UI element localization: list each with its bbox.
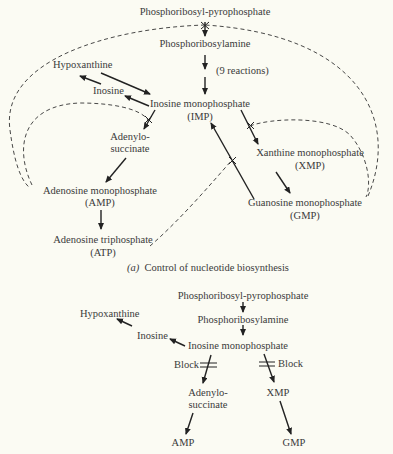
b-arrow-imp-to-inosine: [170, 339, 185, 346]
node-atp: Adenosine triphosphate: [53, 234, 152, 246]
arrow-imp-to-inosine: [125, 96, 149, 106]
node-hypoxanthine: Hypoxanthine: [53, 59, 113, 71]
arrow-inosine-to-hypoxanthine: [80, 76, 101, 84]
node-imp: Inosine monophosphate: [150, 98, 250, 110]
b-arrow-xmp-to-gmp: [280, 401, 291, 434]
node-adenylosuccinate-line1: Adenylo-: [110, 131, 150, 143]
node-xmp-abbr: (XMP): [295, 160, 325, 172]
label-nine-reactions: (9 reactions): [216, 65, 269, 77]
caption-a: (a) Control of nucleotide biosynthesis: [127, 262, 289, 274]
feedback-gmp-to-prpp: [205, 25, 378, 196]
node-amp: Adenosine monophosphate: [43, 185, 157, 197]
arrow-adenylosuccinate-to-amp: [106, 158, 126, 182]
b-node-adenylosuccinate-line1: Adenylo-: [188, 387, 228, 399]
node-imp-abbr: (IMP): [187, 111, 213, 123]
node-atp-abbr: (ATP): [90, 247, 116, 259]
b-label-block-right: Block: [278, 358, 303, 370]
b-node-inosine: Inosine: [137, 330, 168, 342]
node-adenylosuccinate-line2: succinate: [110, 143, 149, 155]
b-node-gmp: GMP: [283, 437, 306, 449]
feedback-atp-to-gmp-imp: [150, 160, 232, 246]
node-gmp: Guanosine monophosphate: [248, 197, 362, 209]
b-arrow-inosine-to-hypoxanthine: [117, 319, 132, 326]
node-gmp-abbr: (GMP): [290, 210, 320, 222]
b-node-phosphoribosylamine: Phosphoribosylamine: [198, 314, 289, 326]
b-arrow-imp-to-xmp: [264, 354, 274, 382]
b-arrow-imp-to-adenylo: [203, 355, 211, 383]
b-node-hypoxanthine: Hypoxanthine: [80, 308, 140, 320]
b-node-imp: Inosine monophosphate: [188, 340, 288, 352]
block-bars: [200, 362, 275, 367]
node-amp-abbr: (AMP): [85, 197, 115, 209]
b-node-adenylosuccinate-line2: succinate: [188, 399, 227, 411]
b-node-prpp: Phosphoribosyl-pyrophosphate: [178, 290, 309, 302]
inhibit-x-icon: [229, 157, 236, 164]
b-arrow-adenylo-to-amp: [186, 413, 193, 434]
node-inosine: Inosine: [93, 85, 124, 97]
caption-a-label: (a): [127, 262, 139, 273]
b-node-xmp: XMP: [267, 387, 290, 399]
b-node-amp: AMP: [172, 437, 195, 449]
node-xmp: Xanthine monophosphate: [256, 147, 364, 159]
node-prpp: Phosphoribosyl-pyrophosphate: [140, 6, 271, 18]
arrow-xmp-to-gmp: [276, 172, 290, 193]
arrow-imp-to-adenylosuccinate: [144, 110, 155, 129]
node-phosphoribosylamine: Phosphoribosylamine: [160, 38, 251, 50]
b-label-block-left: Block: [174, 359, 199, 371]
caption-a-text: Control of nucleotide biosynthesis: [145, 262, 289, 273]
